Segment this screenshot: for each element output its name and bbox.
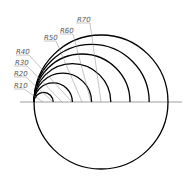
label-r10: R10 <box>14 82 28 90</box>
label-r30: R30 <box>15 59 29 67</box>
arc-r10 <box>34 92 53 102</box>
arc-r40 <box>34 64 111 102</box>
label-r70: R70 <box>77 16 91 24</box>
label-r40: R40 <box>16 48 30 56</box>
arc-r60 <box>34 44 149 102</box>
radius-diagram: R10 R20 R30 R40 R50 R60 R70 <box>0 0 188 180</box>
label-r50: R50 <box>44 34 58 42</box>
label-r60: R60 <box>60 27 74 35</box>
label-r20: R20 <box>14 70 28 78</box>
